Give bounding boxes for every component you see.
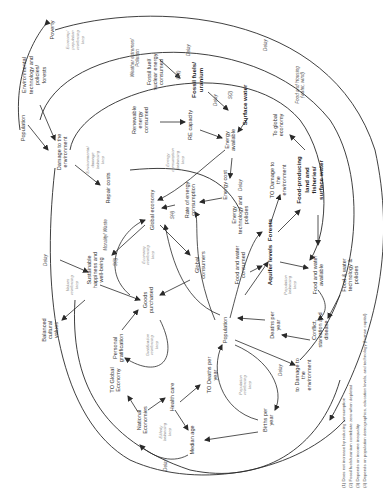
node-aquifer: Aquifer levels: [266, 244, 273, 285]
footnote: (3) Depends on income inequality: [355, 423, 360, 488]
node-national-economies: NationalEconomies: [136, 406, 148, 434]
node-food-water-tech: Food & watertechnology &policies: [341, 258, 360, 291]
annotation-label: Delay: [43, 253, 48, 265]
annotation-label: S(2): [228, 90, 233, 99]
node-population-main: Population: [222, 317, 228, 343]
node-global-consumers: Globalconsumers: [194, 251, 206, 279]
node-to-global-economy-right: To globaleconomy: [272, 113, 284, 136]
node-rate-energy: Rate of energyconsumption: [184, 181, 196, 218]
node-population-top: Population: [20, 115, 26, 141]
loop-label: Populationbalancingloop: [283, 274, 298, 294]
node-repair-costs: Repair costs: [105, 172, 111, 203]
annotation-label: Delay: [163, 458, 168, 470]
loop-label: Economyreinforcingloop: [141, 245, 156, 265]
node-fossil-uranium: Fossil fuels/uranium: [190, 62, 204, 98]
node-renewable: Renewableenergyconsumed: [131, 106, 150, 134]
node-births-per-year: Births peryear: [262, 408, 274, 432]
loop-label: Environmentaldamagebalancingloop: [85, 146, 104, 174]
loop-labels: Economy/populationreinforcingloopEnviron…: [65, 30, 298, 441]
loop-label: Populationreinforcingloop: [238, 374, 253, 394]
node-health-care: Health care: [169, 383, 175, 412]
node-to-damage-right: TO Damage totheenvironment: [269, 162, 288, 199]
node-energy-tech: Energytechnology andpolicies: [231, 196, 250, 234]
node-food-water-available: Food and wateravailable: [312, 255, 324, 294]
node-energy-cost: Energy cost: [222, 170, 228, 200]
node-surface-water: Surface water: [241, 84, 248, 125]
annotation-label: S(4): [170, 210, 175, 219]
footnotes: (1) Does not increase by reducing consum…: [341, 313, 367, 488]
node-median-age: Median age: [189, 425, 195, 454]
node-personal-gratification: Personalgratification: [112, 334, 124, 363]
loop-label: Valuesreinforcingloop: [65, 275, 80, 295]
node-forests: Forests: [266, 218, 273, 241]
node-env-tech: Environmentaltechnology andpolicies/fore…: [21, 56, 46, 94]
node-to-global-economy-left: TO GlobalEconomy: [109, 367, 121, 392]
loop-label: Gratificationreinforcingloop: [145, 333, 160, 356]
annotation-label: Delay: [186, 43, 191, 55]
causal-loop-diagram: PovertyEnvironmentaltechnology andpolici…: [0, 0, 383, 492]
annotation-label: Weather extremes/Pollution: [130, 38, 140, 77]
annotation-label: Delay: [213, 93, 218, 105]
node-to-damage-bottom: to Damage totheenvironment: [294, 358, 313, 392]
footnote: (1) Does not increase by reducing consum…: [341, 397, 346, 488]
loop-label: Elderlybalancingloop: [158, 422, 173, 441]
node-re-capacity: RE capacity: [187, 110, 193, 140]
node-damage-env-top: Damage to theenvironment: [56, 134, 68, 171]
annotation-label: Delay: [238, 178, 243, 190]
annotation-label: S(3): [113, 257, 118, 266]
footnote: (4) Depends on population demographics, …: [362, 313, 367, 488]
annotation-label: Food and Housing(water, wind): [295, 66, 305, 104]
node-conflict: Conflict,starvation anddisease: [311, 312, 330, 347]
annotation-label: O(1): [176, 70, 181, 80]
node-sustainable-happiness: Sustainablehappiness andwell-being: [86, 252, 105, 288]
footnote: (2) Fossil fuels/uranium contribute zero…: [348, 384, 353, 488]
loop-label: Energyconsumptionbalancingloop: [165, 147, 184, 171]
node-global-economy: Global economy: [149, 190, 155, 231]
node-poverty: Poverty: [49, 20, 55, 39]
node-food-land: Food-producingland andfisheries/surface …: [295, 156, 323, 204]
node-food-water-consumed: Food and waterconsumed: [234, 245, 246, 284]
causal-arrows: [28, 60, 340, 459]
node-energy-available: Energyavailable: [224, 129, 236, 151]
node-balanced-values: Balancedculturalvalues: [41, 318, 60, 341]
annotation-label: Morality/ Waste: [103, 219, 108, 251]
diagram-nodes: PovertyEnvironmentaltechnology andpolici…: [20, 20, 359, 454]
node-to-deaths: TO Deaths peryear: [206, 357, 218, 394]
node-deaths-per-year: Deaths peryear: [269, 311, 281, 338]
annotation-label: Delay: [278, 363, 283, 375]
annotation-label: Delay: [263, 38, 268, 50]
loop-label: Economy/populationreinforcingloop: [65, 30, 84, 51]
node-fossil-consumed: Fossil fuel/nuclear energyconsumed: [146, 53, 165, 90]
node-goods-purchased: Goodspurchased: [142, 287, 154, 313]
